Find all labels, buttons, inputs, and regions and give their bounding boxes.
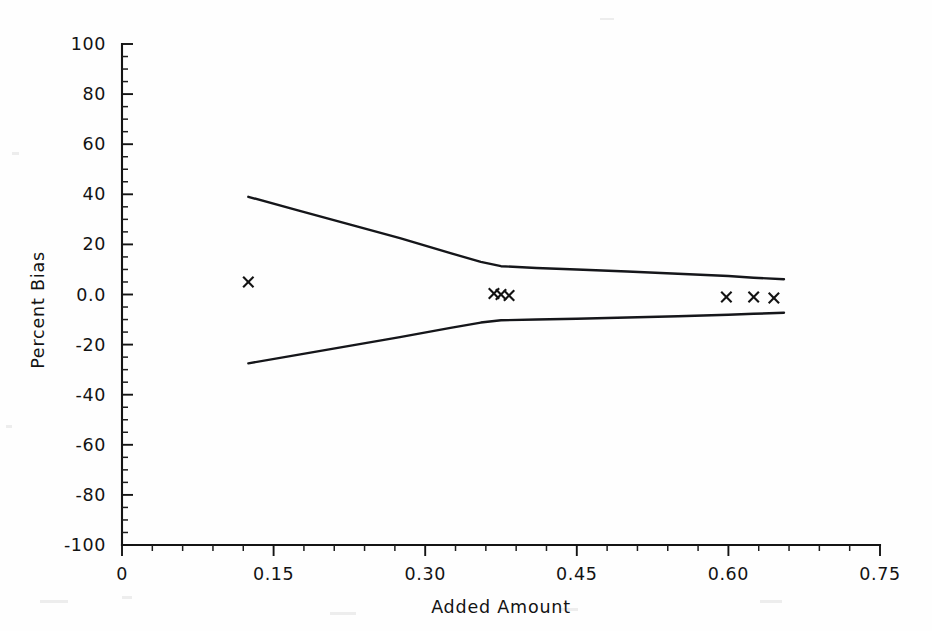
y-tick-label: 100 xyxy=(71,34,106,54)
percent-bias-chart: 100806040200.0-20-40-60-80-100 00.150.30… xyxy=(0,0,932,631)
data-point-marker xyxy=(748,292,758,302)
x-tick-label: 0.45 xyxy=(556,564,597,584)
y-tick-label: 40 xyxy=(83,184,106,204)
y-tick-label: -20 xyxy=(76,335,106,355)
curve-upper-limit-curve xyxy=(248,197,784,279)
y-tick-label: 80 xyxy=(83,84,106,104)
x-axis-ticks xyxy=(122,545,880,556)
data-point-marker xyxy=(721,292,731,302)
x-tick-label: 0.60 xyxy=(708,564,749,584)
curve-lower-limit-curve xyxy=(248,313,784,364)
x-tick-label: 0.75 xyxy=(859,564,900,584)
y-tick-label: -60 xyxy=(76,435,106,455)
y-axis-tick-labels: 100806040200.0-20-40-60-80-100 xyxy=(64,34,106,555)
y-tick-label: 60 xyxy=(83,134,106,154)
y-tick-label: -40 xyxy=(76,385,106,405)
y-tick-label: -80 xyxy=(76,485,106,505)
data-point-marker xyxy=(769,293,779,303)
x-axis-tick-labels: 00.150.300.450.600.75 xyxy=(116,564,901,584)
x-tick-label: 0.30 xyxy=(405,564,446,584)
data-point-marker xyxy=(243,277,253,287)
marker-group-observed-bias-points xyxy=(243,277,779,303)
data-point-marker xyxy=(504,290,514,300)
y-tick-label: 0.0 xyxy=(76,285,106,305)
x-axis-title: Added Amount xyxy=(431,597,571,617)
x-tick-label: 0 xyxy=(116,564,128,584)
y-axis-title: Percent Bias xyxy=(28,251,48,369)
data-series-layer xyxy=(243,197,784,364)
figure-canvas: 100806040200.0-20-40-60-80-100 00.150.30… xyxy=(0,0,932,631)
y-tick-label: -100 xyxy=(64,535,106,555)
y-tick-label: 20 xyxy=(83,234,106,254)
x-tick-label: 0.15 xyxy=(253,564,294,584)
